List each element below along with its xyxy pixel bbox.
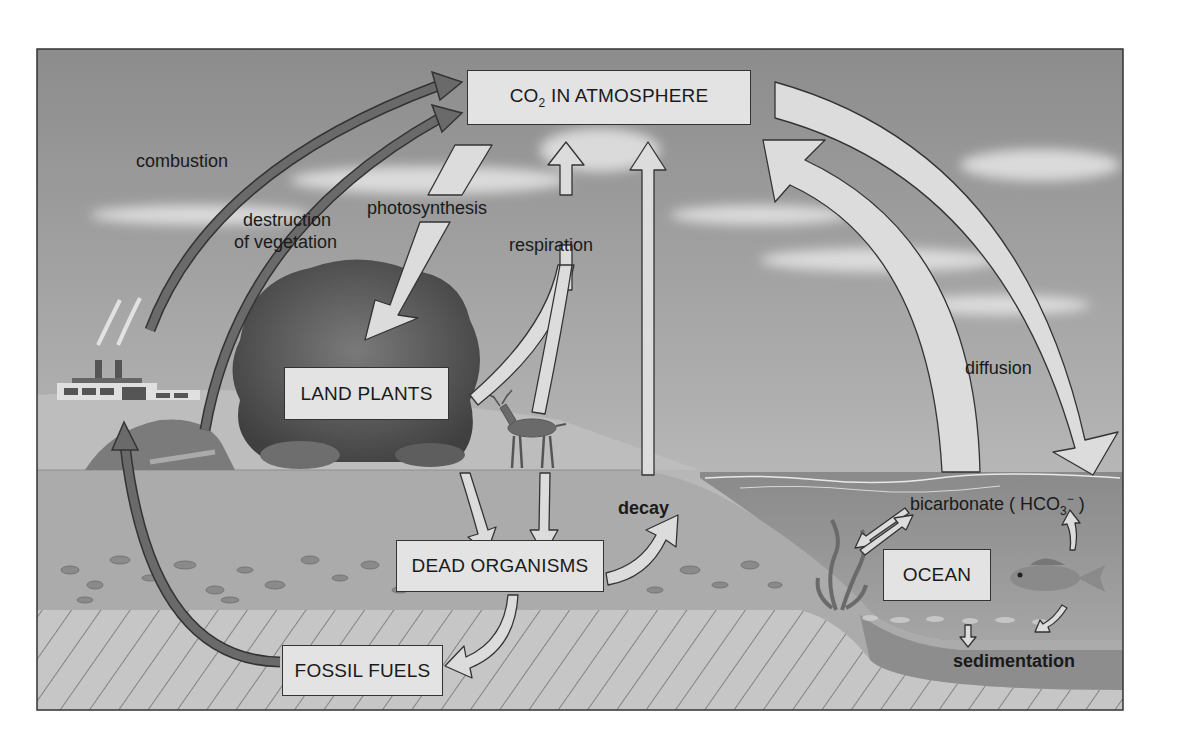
bicarbonate-label: bicarbonate ( HCO3− ) bbox=[910, 488, 1085, 522]
bicarbonate-close: ) bbox=[1074, 494, 1085, 514]
ocean-label: OCEAN bbox=[903, 564, 972, 586]
land-plants-tree bbox=[233, 259, 481, 469]
dead-organisms-label: DEAD ORGANISMS bbox=[412, 555, 589, 577]
sedimentation-label: sedimentation bbox=[953, 650, 1075, 672]
land-plants-label: LAND PLANTS bbox=[300, 383, 432, 405]
land-plants-box: LAND PLANTS bbox=[284, 367, 449, 420]
fossil-fuels-label: FOSSIL FUELS bbox=[295, 660, 431, 682]
photosynthesis-label: photosynthesis bbox=[367, 197, 487, 219]
decay-label: decay bbox=[618, 497, 669, 519]
respiration-label: respiration bbox=[509, 234, 593, 256]
ocean-box: OCEAN bbox=[883, 549, 991, 601]
destruction-label-line2: of vegetation bbox=[234, 231, 337, 253]
diffusion-label: diffusion bbox=[965, 357, 1032, 379]
co2-text: CO bbox=[510, 85, 539, 106]
co2-atmosphere-label: CO2 IN ATMOSPHERE bbox=[510, 85, 709, 110]
destruction-label-line1: destruction bbox=[243, 209, 331, 231]
bicarbonate-superscript: − bbox=[1067, 492, 1074, 506]
fossil-fuels-box: FOSSIL FUELS bbox=[282, 645, 443, 696]
dead-organisms-box: DEAD ORGANISMS bbox=[396, 540, 604, 592]
atmosphere-text: IN ATMOSPHERE bbox=[545, 85, 708, 106]
bicarbonate-text: bicarbonate ( HCO bbox=[910, 494, 1060, 514]
combustion-label: combustion bbox=[136, 150, 228, 172]
co2-atmosphere-box: CO2 IN ATMOSPHERE bbox=[467, 70, 751, 125]
bicarbonate-subscript: 3 bbox=[1060, 504, 1067, 518]
